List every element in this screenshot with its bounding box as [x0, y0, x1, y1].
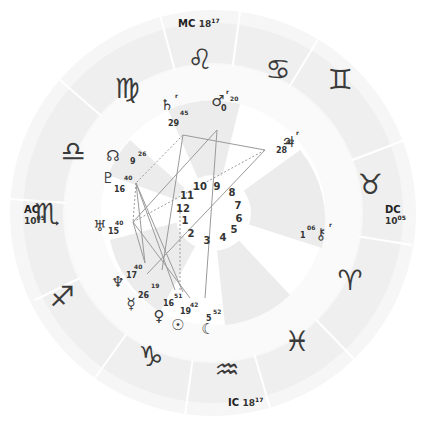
ic-minute: 17	[255, 396, 263, 403]
libra-sign-icon: ♎︎	[60, 138, 85, 166]
house-number-4: 4	[220, 233, 227, 243]
chiron-icon: ⚷︎	[316, 227, 327, 242]
capricorn-sign-icon: ♑︎	[138, 343, 163, 371]
mercury-icon: ☿︎	[126, 297, 135, 312]
chiron-degree: 1	[300, 232, 306, 240]
dc-degree: 10	[385, 216, 398, 226]
ic-text: IC	[228, 397, 239, 408]
leo-sign-icon: ♌︎	[187, 46, 212, 74]
uranus-minute: 40	[115, 220, 123, 226]
saturn-retrograde-marker: r	[175, 93, 178, 99]
pluto-minute: 40	[124, 175, 132, 181]
house-number-10: 10	[193, 182, 207, 192]
dc-label: DC 1005	[385, 205, 406, 226]
moon-degree: 5	[206, 315, 212, 323]
jupiter-minute: 42	[286, 139, 294, 145]
north-node-degree: 9	[130, 158, 136, 166]
mars-minute: 20	[230, 96, 238, 102]
mercury-minute: 19	[151, 283, 159, 289]
mc-degree: 18	[199, 19, 212, 29]
mercury-degree: 26	[138, 292, 149, 300]
mars-retrograde-marker: r	[226, 89, 229, 95]
house-number-7: 7	[235, 201, 242, 211]
cancer-sign-icon: ♋︎	[265, 56, 290, 84]
ic-label: IC 1817	[228, 397, 263, 408]
house-number-8: 8	[229, 188, 236, 198]
uranus-degree: 15	[108, 228, 119, 236]
neptune-minute: 40	[134, 264, 142, 270]
pluto-icon: ♇︎	[101, 171, 114, 186]
house-number-5: 5	[231, 225, 238, 235]
sun-minute: 42	[190, 302, 198, 308]
house-number-3: 3	[204, 236, 211, 246]
sun-icon: ☉︎	[171, 318, 184, 333]
dc-minute: 05	[398, 214, 406, 221]
neptune-degree: 17	[126, 272, 137, 280]
moon-minute: 52	[213, 309, 221, 315]
house-number-6: 6	[236, 214, 243, 224]
saturn-icon: ♄︎	[160, 98, 173, 113]
saturn-minute: 45	[180, 110, 188, 116]
mc-text: MC	[178, 18, 195, 29]
chiron-retrograde-marker: r	[329, 222, 332, 228]
aries-sign-icon: ♈︎	[337, 267, 362, 295]
house-number-11: 11	[180, 191, 194, 201]
virgo-sign-icon: ♍︎	[114, 75, 139, 103]
venus-icon: ♀︎	[154, 309, 165, 324]
mars-degree: 0	[221, 105, 227, 113]
house-number-2: 2	[188, 229, 195, 239]
mc-label: MC 1817	[178, 18, 220, 29]
saturn-degree: 29	[168, 120, 179, 128]
scorpio-sign-icon: ♏︎	[34, 200, 59, 228]
north-node-icon: ☊︎	[106, 149, 119, 164]
natal-chart-wheel	[0, 0, 426, 426]
chiron-minute: 06	[307, 225, 315, 231]
house-number-9: 9	[214, 182, 221, 192]
pisces-sign-icon: ♓︎	[284, 328, 309, 356]
gemini-sign-icon: ♊︎	[327, 66, 352, 94]
sagittarius-sign-icon: ♐︎	[49, 283, 74, 311]
sun-degree: 19	[180, 308, 191, 316]
jupiter-retrograde-marker: r	[296, 130, 299, 136]
aquarius-sign-icon: ♒︎	[214, 356, 239, 384]
moon-icon: ☾︎	[201, 322, 214, 337]
taurus-sign-icon: ♉︎	[357, 171, 382, 199]
pluto-degree: 16	[114, 186, 125, 194]
venus-degree: 16	[163, 300, 174, 308]
mc-minute: 17	[211, 17, 219, 24]
house-number-1: 1	[182, 216, 189, 226]
jupiter-degree: 28	[276, 147, 287, 155]
venus-minute: 51	[174, 293, 182, 299]
house-number-12: 12	[176, 204, 190, 214]
north-node-minute: 26	[138, 151, 146, 157]
neptune-icon: ♆︎	[111, 275, 124, 290]
uranus-icon: ♅︎	[93, 219, 106, 234]
ic-degree: 18	[243, 398, 256, 408]
